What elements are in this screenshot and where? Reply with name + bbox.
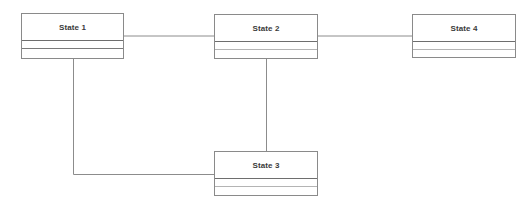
state-operations-section — [215, 50, 317, 58]
state-attributes-section — [413, 42, 515, 50]
state-title: State 4 — [451, 24, 478, 33]
state-title: State 3 — [253, 161, 280, 170]
state-header: State 3 — [215, 152, 317, 179]
state-attributes-section — [215, 179, 317, 187]
state-header: State 2 — [215, 15, 317, 42]
state-attributes-section — [215, 42, 317, 50]
state-node-4[interactable]: State 4 — [412, 14, 516, 58]
state-attributes-section — [22, 41, 123, 49]
state-operations-section — [215, 187, 317, 195]
state-node-3[interactable]: State 3 — [214, 151, 318, 196]
state-operations-section — [22, 49, 123, 57]
state-title: State 1 — [59, 23, 86, 32]
state-operations-section — [413, 50, 515, 58]
state-title: State 2 — [253, 24, 280, 33]
state-node-2[interactable]: State 2 — [214, 14, 318, 59]
state-node-1[interactable]: State 1 — [21, 13, 124, 59]
state-header: State 1 — [22, 14, 123, 41]
diagram-canvas: State 1 State 2 State 4 State 3 — [0, 0, 532, 205]
connector-state1-state3[interactable] — [74, 59, 215, 175]
state-header: State 4 — [413, 15, 515, 42]
